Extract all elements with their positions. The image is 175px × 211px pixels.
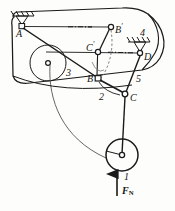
joint-c-prime — [95, 49, 100, 54]
force-symbol: F — [122, 185, 129, 196]
ground-hatch-d — [127, 37, 150, 42]
bottom-wheel-hub — [119, 152, 124, 157]
inner-circle-center-joint — [46, 61, 51, 66]
mechanism-diagram-svg — [0, 0, 175, 211]
label-point-b: B — [87, 74, 93, 84]
label-c-prime-mark: ′ — [93, 40, 95, 49]
label-point-c: C — [130, 93, 137, 103]
centerline-cprime-d-dashdot — [108, 52, 133, 53]
label-point-b-prime: B′ — [115, 23, 123, 35]
arc-cprime-sweep — [92, 62, 104, 71]
label-c-prime-letter: C — [86, 42, 93, 53]
label-point-d: D — [144, 52, 151, 62]
label-b-prime-mark: ′ — [121, 22, 123, 31]
label-link-4: 4 — [140, 28, 145, 38]
figure-canvas: A B′ C′ B C D 1 2 3 4 5 FN — [0, 0, 175, 211]
label-force-fn: FN — [122, 186, 134, 197]
label-point-a: A — [16, 29, 22, 39]
label-link-5: 5 — [136, 74, 141, 84]
link-cprime-b — [97, 55, 98, 77]
force-subscript: N — [129, 189, 134, 196]
centerline-a-bprime — [25, 27, 109, 28]
link-c-to-wheel — [122, 97, 125, 154]
label-link-3: 3 — [66, 68, 71, 78]
label-point-c-prime: C′ — [86, 41, 94, 53]
bottom-wheel-contact-line — [106, 151, 120, 154]
label-link-2: 2 — [99, 92, 104, 102]
link-bprime-cprime — [100, 29, 110, 50]
label-link-1: 1 — [124, 172, 129, 182]
pivot-joint-d — [137, 50, 142, 55]
joint-b-prime — [108, 24, 113, 29]
joint-c — [122, 91, 128, 97]
